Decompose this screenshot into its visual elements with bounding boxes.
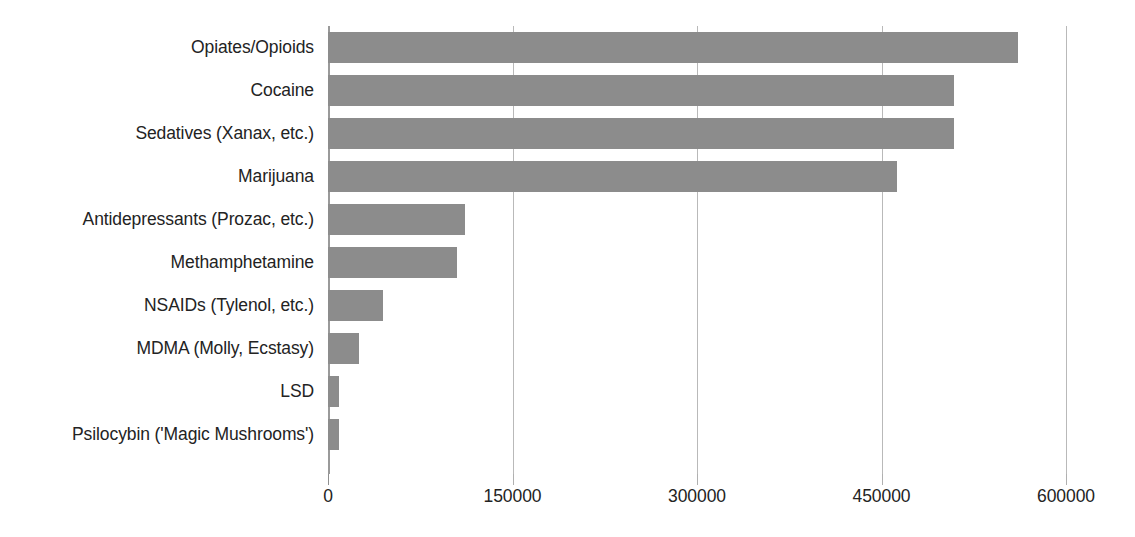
x-tick-label: 150000 — [484, 486, 542, 507]
category-axis-labels: Opiates/OpioidsCocaineSedatives (Xanax, … — [0, 26, 322, 474]
x-tick-label: 450000 — [853, 486, 911, 507]
category-label: Marijuana — [0, 155, 322, 198]
bar — [328, 75, 954, 106]
bar-row — [328, 155, 1066, 198]
tickmark-600000 — [1066, 474, 1067, 485]
x-tick-label: 600000 — [1037, 486, 1095, 507]
bar-row — [328, 327, 1066, 370]
bar — [328, 118, 954, 149]
gridline-600000 — [1066, 26, 1067, 474]
category-label: Sedatives (Xanax, etc.) — [0, 112, 322, 155]
tickmark-150000 — [513, 474, 514, 485]
bar-row — [328, 112, 1066, 155]
bar-row — [328, 413, 1066, 456]
bar-row — [328, 198, 1066, 241]
bar-row — [328, 69, 1066, 112]
bar — [328, 161, 897, 192]
bar — [328, 290, 383, 321]
category-label: Antidepressants (Prozac, etc.) — [0, 198, 322, 241]
x-axis-tick-labels: 0150000300000450000600000 — [328, 486, 1066, 516]
x-tick-label: 300000 — [668, 486, 726, 507]
x-axis-tickmarks — [328, 474, 1066, 486]
plot-area — [328, 26, 1066, 474]
bar-row — [328, 241, 1066, 284]
bar-chart: Opiates/OpioidsCocaineSedatives (Xanax, … — [0, 0, 1135, 537]
x-tick-label: 0 — [323, 486, 333, 507]
tickmark-300000 — [697, 474, 698, 485]
bar — [328, 247, 457, 278]
bar — [328, 32, 1018, 63]
category-label: Psilocybin ('Magic Mushrooms') — [0, 413, 322, 456]
bar-row — [328, 26, 1066, 69]
bar — [328, 204, 465, 235]
category-label: Cocaine — [0, 69, 322, 112]
bar — [328, 419, 339, 450]
tickmark-0 — [328, 474, 329, 485]
category-label: MDMA (Molly, Ecstasy) — [0, 327, 322, 370]
bar-row — [328, 370, 1066, 413]
bar — [328, 376, 339, 407]
category-label: LSD — [0, 370, 322, 413]
bar-row — [328, 284, 1066, 327]
tickmark-450000 — [882, 474, 883, 485]
category-label: NSAIDs (Tylenol, etc.) — [0, 284, 322, 327]
bars-layer — [328, 26, 1066, 474]
bar — [328, 333, 359, 364]
category-label: Opiates/Opioids — [0, 26, 322, 69]
category-label: Methamphetamine — [0, 241, 322, 284]
